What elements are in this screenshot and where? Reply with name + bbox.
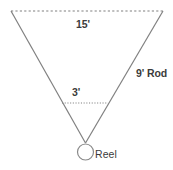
rod-length-label: 9' Rod	[136, 68, 167, 79]
fishing-rod-triangle-diagram: 15' 9' Rod 3' Reel	[0, 0, 173, 170]
reel-label: Reel	[95, 149, 117, 160]
mid-width-label: 3'	[72, 87, 80, 98]
reel-circle-icon	[78, 144, 94, 160]
top-width-label: 15'	[76, 19, 90, 30]
left-rod-line	[11, 11, 86, 143]
